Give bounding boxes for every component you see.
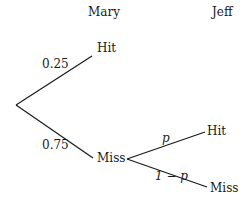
prob-mary-miss: 0.75 — [42, 139, 69, 151]
outcome-jeff-miss: Miss — [210, 182, 238, 194]
prob-mary-hit: 0.25 — [42, 58, 69, 70]
outcome-mary-miss: Miss — [97, 152, 125, 164]
outcome-jeff-hit: Hit — [207, 125, 226, 137]
probability-tree-diagram: Mary Jeff Hit 0.25 Miss 0.75 Hit p Miss … — [0, 0, 244, 202]
outcome-mary-hit: Hit — [97, 42, 116, 54]
header-mary: Mary — [88, 6, 120, 18]
tree-branches — [0, 0, 244, 202]
prob-jeff-miss: 1 − p — [155, 170, 188, 182]
header-jeff: Jeff — [212, 6, 232, 18]
prob-jeff-hit: p — [162, 132, 170, 144]
